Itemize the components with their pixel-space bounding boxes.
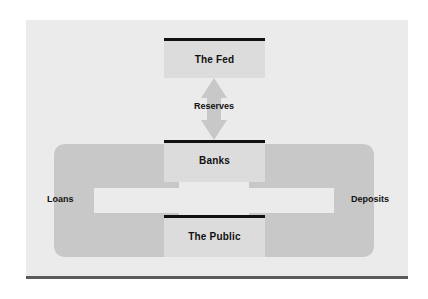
entity-box-the-public[interactable]: The Public xyxy=(164,215,265,257)
entity-top-bar xyxy=(164,38,265,41)
entity-box-banks[interactable]: Banks xyxy=(164,140,265,182)
flow-label-deposits: Deposits xyxy=(351,194,389,204)
entity-top-bar xyxy=(164,215,265,218)
flow-label-loans: Loans xyxy=(47,194,74,204)
diagram-panel: The Fed Banks The Public Reserves Loans … xyxy=(26,20,408,279)
entity-label-the-public: The Public xyxy=(164,231,265,242)
entity-label-the-fed: The Fed xyxy=(164,54,265,65)
entity-box-the-fed[interactable]: The Fed xyxy=(164,38,265,78)
entity-label-banks: Banks xyxy=(164,155,265,166)
diagram-screenshot: The Fed Banks The Public Reserves Loans … xyxy=(0,0,428,299)
entity-top-bar xyxy=(164,140,265,143)
flow-label-reserves: Reserves xyxy=(176,101,252,111)
frame-bottom-rule xyxy=(26,276,408,279)
